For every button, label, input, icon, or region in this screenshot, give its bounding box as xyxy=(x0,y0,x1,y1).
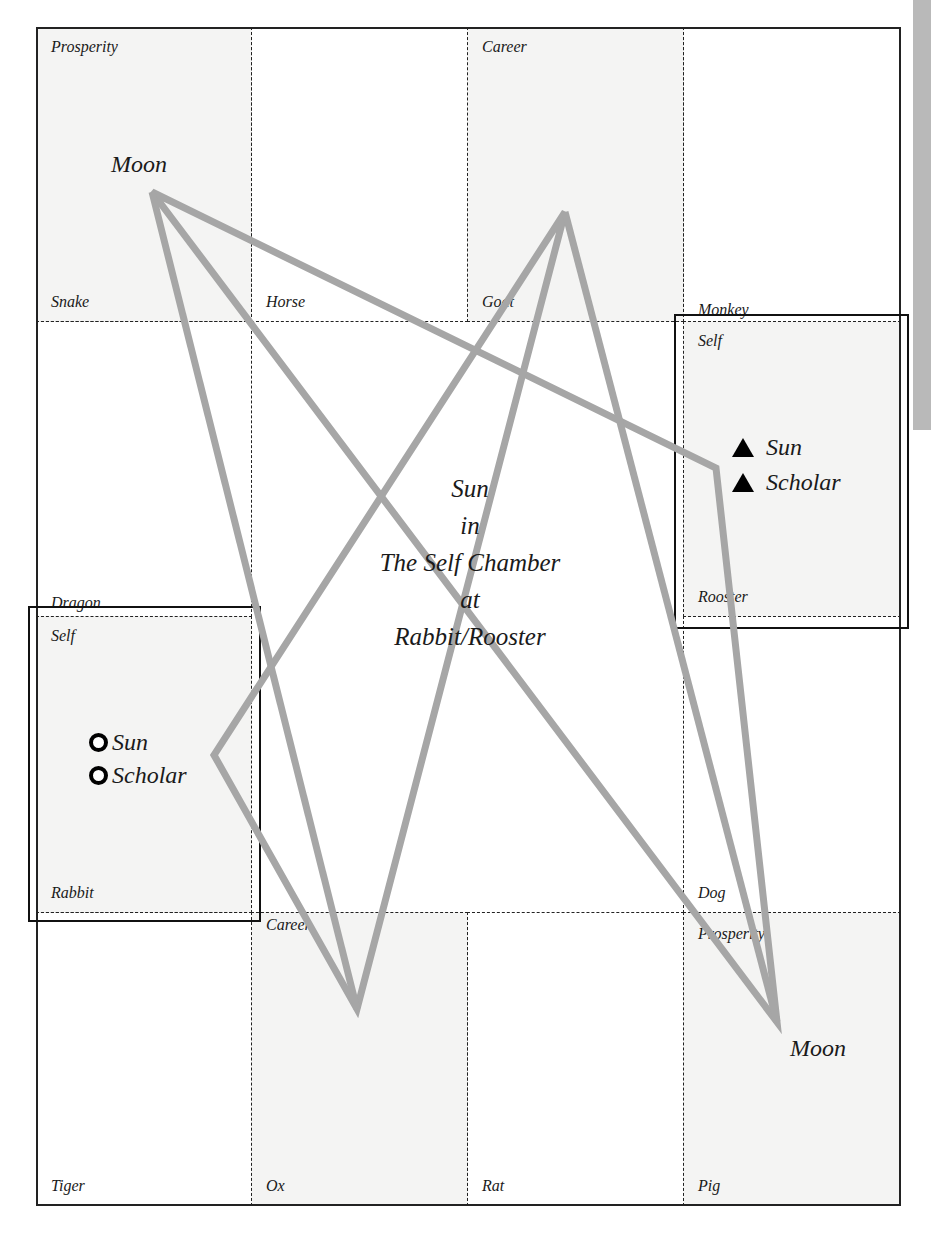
ring-icon xyxy=(89,766,108,785)
branch-label: Tiger xyxy=(51,1177,85,1195)
marker-rabbit-sun: Sun xyxy=(89,729,148,756)
branch-label: Ox xyxy=(266,1177,285,1195)
palace-label: Prosperity xyxy=(698,925,765,943)
marker-label: Scholar xyxy=(766,469,841,496)
star-moon-pig: Moon xyxy=(790,1035,846,1062)
page-edge-tab xyxy=(913,0,931,430)
cell-ox: Career Ox xyxy=(251,912,468,1206)
branch-label: Pig xyxy=(698,1177,720,1195)
caption-line: Rabbit/Rooster xyxy=(340,618,600,655)
palace-label: Self xyxy=(51,627,75,645)
caption-line: in xyxy=(340,507,600,544)
triangle-icon xyxy=(732,438,754,457)
palace-label: Career xyxy=(482,38,527,56)
cell-monkey: Monkey xyxy=(683,27,901,322)
marker-rabbit-scholar: Scholar xyxy=(89,762,187,789)
branch-label: Rooster xyxy=(698,588,748,606)
marker-label: Scholar xyxy=(112,762,187,789)
caption-line: at xyxy=(340,581,600,618)
caption-line: Sun xyxy=(340,470,600,507)
branch-label: Monkey xyxy=(698,301,749,319)
branch-label: Horse xyxy=(266,293,305,311)
ring-icon xyxy=(89,733,108,752)
triangle-icon xyxy=(732,473,754,492)
branch-label: Goat xyxy=(482,293,514,311)
branch-label: Rat xyxy=(482,1177,504,1195)
marker-rooster-sun: Sun xyxy=(732,434,802,461)
cell-goat: Career Goat xyxy=(467,27,684,322)
center-caption: Sun in The Self Chamber at Rabbit/Rooste… xyxy=(340,470,600,655)
star-moon-snake: Moon xyxy=(111,151,167,178)
branch-label: Rabbit xyxy=(51,884,94,902)
marker-rooster-scholar: Scholar xyxy=(732,469,841,496)
cell-tiger: Tiger xyxy=(36,912,252,1206)
caption-line: The Self Chamber xyxy=(340,544,600,581)
marker-label: Sun xyxy=(766,434,802,461)
palace-label: Career xyxy=(266,916,311,934)
branch-label: Snake xyxy=(51,293,89,311)
cell-dragon: Dragon xyxy=(36,321,252,617)
cell-dog: Dog xyxy=(683,616,901,913)
palace-label: Self xyxy=(698,332,722,350)
cell-horse: Horse xyxy=(251,27,468,322)
branch-label: Dog xyxy=(698,884,726,902)
branch-label: Dragon xyxy=(51,594,101,612)
marker-label: Sun xyxy=(112,729,148,756)
cell-rat: Rat xyxy=(467,912,684,1206)
palace-label: Prosperity xyxy=(51,38,118,56)
